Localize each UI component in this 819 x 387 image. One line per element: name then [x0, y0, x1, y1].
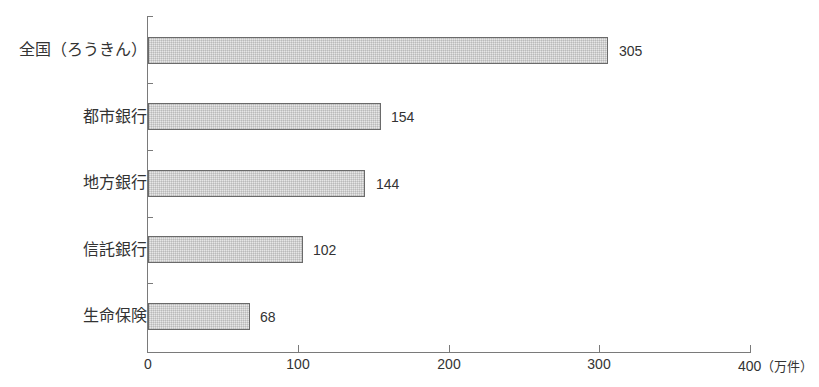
x-tick-label-max: 400（万件） [738, 356, 813, 375]
x-tick-label: 300 [587, 356, 610, 372]
bar-city-banks [148, 103, 381, 130]
value-label: 154 [391, 108, 414, 126]
y-axis-tick [148, 16, 153, 17]
x-axis-tick [298, 345, 299, 352]
x-axis-line [147, 352, 751, 353]
category-label: 都市銀行 [83, 107, 147, 127]
x-axis-tick [599, 345, 600, 352]
value-label: 144 [376, 175, 399, 193]
category-label: 生命保険 [83, 306, 147, 326]
value-label: 305 [619, 42, 642, 60]
bar-regional-banks [148, 170, 365, 197]
bar-chart: 全国（ろうきん） 305 都市銀行 154 地方銀行 144 信託銀行 102 … [0, 0, 819, 387]
y-axis-tick [148, 83, 153, 84]
y-axis-tick [148, 283, 153, 284]
value-label: 68 [260, 308, 276, 326]
x-tick-label: 200 [437, 356, 460, 372]
y-axis-tick [148, 150, 153, 151]
x-tick-label: 0 [144, 356, 152, 372]
category-label: 地方銀行 [83, 173, 147, 193]
value-label: 102 [313, 241, 336, 259]
x-tick-label: 400 [738, 358, 761, 374]
category-label: 信託銀行 [83, 240, 147, 260]
bar-zenkoku-rokin [148, 37, 608, 64]
x-axis-unit: （万件） [761, 359, 813, 374]
y-axis-tick [148, 217, 153, 218]
bar-trust-banks [148, 236, 303, 263]
x-tick-label: 100 [286, 356, 309, 372]
bar-life-insurance [148, 303, 250, 330]
category-label: 全国（ろうきん） [19, 40, 147, 60]
x-axis-tick [449, 345, 450, 352]
x-axis-tick [750, 345, 751, 352]
